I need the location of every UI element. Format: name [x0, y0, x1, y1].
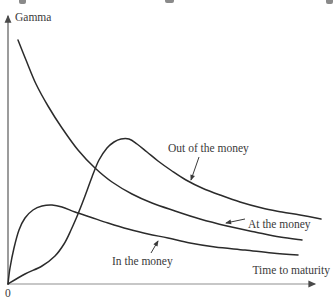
- figure-canvas: Gamma Time to maturity 0 Out of the mone…: [0, 0, 335, 300]
- origin-label: 0: [5, 287, 11, 299]
- curves-group: [8, 40, 321, 284]
- annotation-label-at-the-money: At the money: [248, 218, 311, 231]
- annotations-group: Out of the moneyAt the moneyIn the money: [112, 142, 311, 268]
- annotation-arrow-out-of-the-money: [191, 157, 199, 180]
- annotation-label-out-of-the-money: Out of the money: [168, 142, 249, 155]
- curve-at-the-money: [18, 40, 302, 240]
- x-axis-label: Time to maturity: [252, 264, 330, 277]
- gamma-vs-time-to-maturity-chart: Gamma Time to maturity 0 Out of the mone…: [0, 0, 335, 300]
- annotation-arrow-at-the-money: [226, 219, 245, 223]
- annotation-arrow-in-the-money: [151, 241, 158, 253]
- annotation-label-in-the-money: In the money: [112, 255, 173, 268]
- y-axis-label: Gamma: [15, 11, 51, 23]
